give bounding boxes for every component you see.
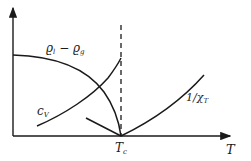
label-sub-v: V [44,111,49,119]
label-sub-g: g [80,48,84,56]
inverse-compressibility-label: 1/χT [186,92,208,103]
label-rho-g: ϱ [73,41,80,55]
label-sub-c: c [123,148,127,156]
label-minus: − [55,41,73,55]
label-sub-l: l [53,48,55,56]
inverse-compressibility-curve [121,75,204,136]
phase-diagram [0,0,251,161]
critical-temperature-label: Tc [115,142,127,154]
specific-heat-label: cV [37,105,49,117]
specific-heat-curve [37,58,121,126]
density-difference-curve [13,55,121,136]
density-difference-label: ϱl − ϱg [46,42,85,54]
x-axis-label: T [226,143,235,156]
label-t: T [115,141,123,155]
label-c: c [37,104,44,118]
label-sub-t: T [203,97,208,105]
label-rho-l: ϱ [46,41,53,55]
specific-heat-lower-branch [86,118,121,136]
label-inv-chi: 1/χ [186,91,203,104]
